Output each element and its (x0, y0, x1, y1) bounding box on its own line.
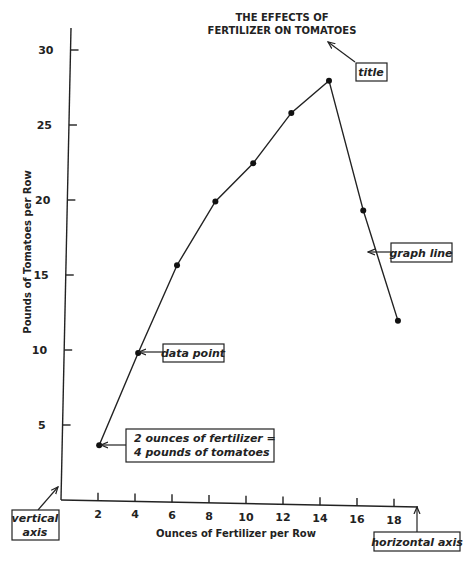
graph-line (99, 81, 398, 446)
y-tick-label: 15 (33, 269, 48, 282)
data-point-marker (326, 78, 332, 84)
y-tick-label: 20 (35, 194, 51, 207)
example-callout-line-2: 4 pounds of tomatoes (133, 446, 270, 459)
vertical-axis-callout-line-2: axis (23, 526, 48, 539)
horizontal-axis-callout-label: horizontal axis (371, 536, 463, 549)
title-callout-label: title (358, 66, 384, 79)
graph-line-callout-label: graph line (389, 247, 453, 260)
x-tick-label: 6 (168, 509, 176, 522)
data-point-marker (360, 207, 366, 213)
fertilizer-chart: THE EFFECTS OF FERTILIZER ON TOMATOES 51… (0, 0, 473, 563)
y-axis-title: Pounds of Tomatoes per Row (22, 170, 33, 333)
title-callout-arrow (328, 42, 355, 62)
vertical-axis-callout-arrow (38, 487, 58, 510)
x-tick-label: 12 (275, 511, 290, 524)
data-point-marker (250, 160, 256, 166)
x-tick-label: 10 (238, 511, 254, 524)
data-point-callout-label: data point (161, 347, 226, 360)
data-point-marker (395, 318, 401, 324)
x-tick-label: 8 (205, 510, 213, 523)
data-point-marker (174, 262, 180, 268)
y-tick-label: 25 (37, 119, 52, 132)
data-point-marker (212, 198, 218, 204)
chart-title-line-1: THE EFFECTS OF (235, 12, 328, 23)
x-axis-title: Ounces of Fertilizer per Row (156, 528, 316, 539)
x-axis-line (61, 500, 418, 507)
data-point-marker (288, 110, 294, 116)
vertical-axis-callout-line-1: vertical (12, 512, 59, 525)
y-tick-label: 5 (38, 419, 46, 432)
data-point-marker (135, 350, 141, 356)
y-tick-label: 30 (38, 44, 54, 57)
y-tick-label: 10 (32, 344, 48, 357)
x-tick-label: 16 (349, 513, 365, 526)
x-tick-label: 18 (386, 514, 401, 527)
x-tick-label: 14 (312, 512, 328, 525)
x-tick-label: 2 (94, 508, 102, 521)
y-axis-line (61, 28, 71, 500)
example-callout-line-1: 2 ounces of fertilizer = (134, 432, 276, 445)
chart-title-line-2: FERTILIZER ON TOMATOES (208, 25, 357, 36)
x-tick-label: 4 (131, 508, 139, 521)
